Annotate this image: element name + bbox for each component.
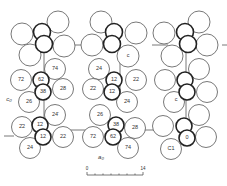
atom [125, 22, 147, 44]
molecule-left-bottom: 24̄ 2̄2 1̄2 12 22 24 [12, 105, 74, 159]
molecule-right-top [153, 11, 218, 67]
atom-label: 22 [60, 133, 66, 139]
a-axis-label: a₀ [98, 154, 104, 160]
atom-label: 38 [40, 88, 46, 94]
atom-label: 28 [60, 85, 66, 91]
atom-label: 1̄2 [109, 88, 115, 94]
molecule-left-middle: 74 72 62 38 28 26 [11, 59, 74, 113]
atom-label: 2̄4 [124, 98, 130, 104]
scale-bar-start-label: 0 [86, 166, 89, 171]
atom-label: 2̄2 [19, 123, 25, 129]
atom [53, 35, 75, 57]
atom-label: 2̄2 [90, 85, 96, 91]
atom-label: 1̄2 [37, 121, 43, 127]
atom-bold [179, 84, 195, 100]
atom-label: 22 [133, 76, 139, 82]
molecule-middle-top: c [81, 11, 147, 67]
atom-bold [36, 36, 53, 53]
atom-label: 72 [90, 133, 96, 139]
atom [153, 22, 175, 44]
atom-label: 24 [96, 65, 102, 71]
atom-label: 74 [125, 144, 131, 150]
scale-bar-end-label: 14 [140, 166, 146, 171]
atom [161, 45, 183, 67]
atom-label: c [175, 96, 178, 102]
molecule-middle-bottom: 26 38 28 72 62 74 [83, 105, 146, 159]
atom [196, 34, 218, 56]
atom-label: 28 [132, 124, 138, 130]
crystal-packing-diagram: 74 72 62 38 28 26 24̄ 2̄2 1̄2 12 22 24 c [0, 0, 227, 186]
atom-label: 26 [26, 98, 32, 104]
atom-label: 74 [52, 65, 58, 71]
atom-label: 26 [97, 111, 103, 117]
scale-bar: 0 14 [86, 166, 146, 175]
atom-label: 24 [27, 144, 33, 150]
atom-label: C1 [167, 145, 174, 151]
atom-label: 24̄ [52, 111, 59, 117]
atom [155, 70, 176, 91]
atom [153, 116, 174, 137]
atom [81, 34, 103, 56]
molecule-left-top [11, 11, 75, 66]
molecule-right-bottom: 0 C1 [153, 105, 217, 160]
atom-bold [104, 36, 121, 53]
molecule-middle-middle: 24 12 22 2̄2 1̄2 2̄4 [83, 59, 147, 113]
atom-label: 62 [110, 133, 116, 139]
atom-label: 62 [38, 76, 44, 82]
atom-label: 0 [185, 134, 188, 140]
scale-bar-ticks [87, 172, 143, 175]
atom-label: 38 [113, 121, 119, 127]
atom [11, 23, 33, 45]
atom [196, 127, 217, 148]
c-axis-label: c₀ [6, 96, 12, 102]
atom-label: 12 [111, 76, 117, 82]
atom-label: 72 [18, 76, 24, 82]
atom-label: c [127, 52, 130, 58]
atom-label: 12 [40, 133, 46, 139]
atom-bold [180, 36, 197, 53]
atom [197, 82, 218, 103]
